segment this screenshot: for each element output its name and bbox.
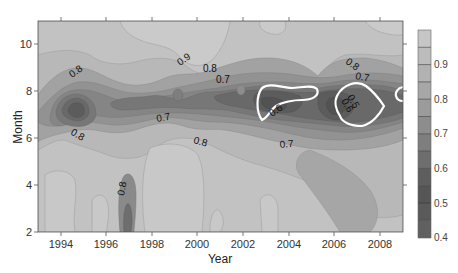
y-axis-title: Month bbox=[11, 110, 25, 143]
colorbar-label: 0.6 bbox=[434, 163, 448, 174]
colorbar-label: 0.5 bbox=[434, 198, 448, 209]
y-tick-label: 10 bbox=[20, 38, 32, 50]
x-tick-label: 1998 bbox=[140, 238, 164, 250]
contour-label: 0.7 bbox=[279, 138, 294, 150]
contour-label: 0.7 bbox=[216, 74, 230, 85]
x-tick-label: 1994 bbox=[49, 238, 73, 250]
band-col-1997-core bbox=[124, 204, 132, 232]
x-tick-labels: 1994 1996 1998 2000 2002 2004 2006 2008 bbox=[49, 238, 392, 250]
y-tick-label: 8 bbox=[26, 85, 32, 97]
x-tick-label: 2008 bbox=[368, 238, 392, 250]
colorbar-labels: 0.9 0.8 0.7 0.6 0.5 0.4 bbox=[434, 59, 448, 243]
x-tick-label: 2006 bbox=[322, 238, 346, 250]
y-tick-label: 2 bbox=[26, 226, 32, 238]
contour-chart: 0.8 0.8 0.9 0.8 0.7 0.7 0.8 0.8 0.7 0.6 … bbox=[0, 0, 458, 273]
x-axis-title: Year bbox=[208, 252, 232, 266]
y-tick-label: 6 bbox=[26, 132, 32, 144]
spot bbox=[173, 89, 183, 101]
colorbar bbox=[418, 30, 431, 238]
spot bbox=[237, 85, 245, 95]
colorbar-label: 0.4 bbox=[434, 232, 448, 243]
colorbar-label: 0.7 bbox=[434, 128, 448, 139]
x-tick-label: 2000 bbox=[185, 238, 209, 250]
plot-area bbox=[38, 21, 403, 232]
colorbar-label: 0.9 bbox=[434, 59, 448, 70]
y-tick-label: 4 bbox=[26, 179, 32, 191]
x-tick-label: 2004 bbox=[277, 238, 301, 250]
colorbar-label: 0.8 bbox=[434, 94, 448, 105]
x-tick-label: 2002 bbox=[231, 238, 255, 250]
contour-label: 0.8 bbox=[203, 63, 217, 74]
x-tick-label: 1996 bbox=[94, 238, 118, 250]
